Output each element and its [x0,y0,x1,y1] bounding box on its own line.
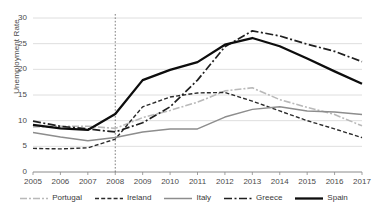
x-tick-label: 2011 [185,178,211,186]
x-tick-label: 2013 [239,178,265,186]
y-tick-label: 10 [11,117,27,125]
x-tick-label: 2005 [20,178,46,186]
y-tick-label: 25 [11,40,27,48]
legend-item-greece[interactable]: Greece [224,194,282,202]
legend-item-ireland[interactable]: Ireland [95,194,151,202]
legend-swatch-ireland [95,195,123,202]
legend-swatch-portugal [20,195,48,202]
series-line-greece [33,31,362,132]
legend-swatch-spain [295,195,323,202]
x-tick-label: 2015 [294,178,320,186]
y-tick-label: 5 [11,142,27,150]
y-tick-label: 20 [11,65,27,73]
legend-label: Italy [196,194,211,202]
legend-label: Ireland [127,194,151,202]
legend-item-spain[interactable]: Spain [295,194,347,202]
x-tick-label: 2016 [322,178,348,186]
legend-label: Portugal [52,194,82,202]
chart-legend: PortugalIrelandItalyGreeceSpain [0,194,368,202]
legend-item-italy[interactable]: Italy [164,194,211,202]
legend-label: Greece [256,194,282,202]
series-line-spain [33,38,362,130]
x-tick-label: 2008 [102,178,128,186]
y-tick-label: 15 [11,91,27,99]
series-line-portugal [33,88,362,129]
legend-swatch-greece [224,195,252,202]
x-tick-label: 2010 [157,178,183,186]
x-tick-label: 2006 [47,178,73,186]
series-line-italy [33,107,362,141]
legend-item-portugal[interactable]: Portugal [20,194,82,202]
y-tick-label: 0 [11,168,27,176]
legend-swatch-italy [164,195,192,202]
x-tick-label: 2017 [349,178,375,186]
y-tick-label: 30 [11,14,27,22]
x-tick-label: 2012 [212,178,238,186]
x-tick-label: 2007 [75,178,101,186]
x-tick-label: 2009 [130,178,156,186]
legend-label: Spain [327,194,347,202]
x-tick-label: 2014 [267,178,293,186]
